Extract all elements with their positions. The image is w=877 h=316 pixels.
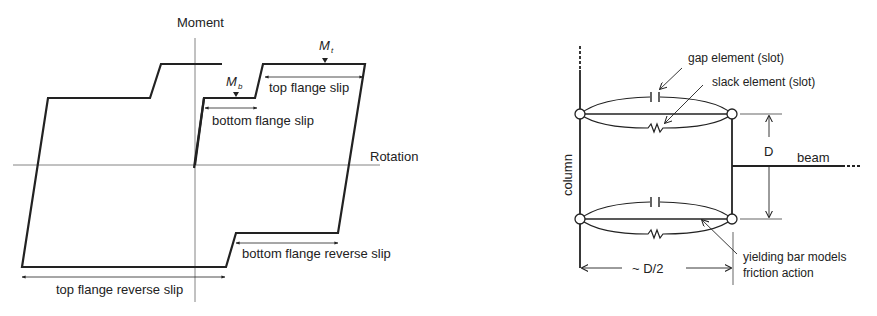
slack-element-arrow	[665, 85, 703, 123]
top-left-pin	[575, 109, 585, 119]
svg-text:M: M	[319, 38, 330, 53]
beam-label: beam	[797, 150, 830, 165]
mt-marker: M t	[319, 38, 334, 63]
figure-canvas: Moment Rotation M t M b top flange slip …	[0, 0, 877, 316]
column-label: column	[560, 154, 575, 196]
gap-element-arrow	[660, 68, 682, 89]
yielding-bar-label-2: friction action	[743, 266, 814, 280]
yielding-bar-arrow	[702, 220, 737, 254]
rotation-axis-label: Rotation	[370, 149, 418, 164]
slack-element-label: slack element (slot)	[712, 75, 815, 89]
width-label: ~ D/2	[632, 261, 663, 276]
moment-axis-label: Moment	[177, 15, 224, 30]
bottom-flange-slip-label: bottom flange slip	[212, 113, 314, 128]
yielding-bar-label-1: yielding bar models	[743, 250, 846, 264]
connection-model-diagram: column beam gap	[560, 46, 862, 285]
top-flange-slip-label: top flange slip	[269, 80, 349, 95]
bottom-flange-reverse-slip-label: bottom flange reverse slip	[242, 246, 391, 261]
bottom-link	[575, 197, 737, 238]
bottom-left-pin	[575, 214, 585, 224]
bottom-right-pin	[727, 214, 737, 224]
svg-text:b: b	[238, 82, 243, 91]
gap-element-label: gap element (slot)	[688, 51, 784, 65]
mb-marker: M b	[226, 74, 243, 97]
top-link	[575, 92, 737, 132]
top-right-pin	[727, 109, 737, 119]
svg-text:t: t	[331, 46, 334, 55]
moment-rotation-diagram: Moment Rotation M t M b top flange slip …	[13, 15, 418, 302]
depth-label: D	[764, 144, 773, 159]
svg-text:M: M	[226, 74, 237, 89]
top-flange-reverse-slip-label: top flange reverse slip	[56, 282, 183, 297]
hysteresis-inner-branch	[194, 98, 204, 168]
